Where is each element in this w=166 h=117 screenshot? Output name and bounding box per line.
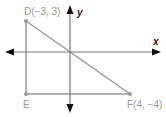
x-axis-right-arrow-icon bbox=[152, 49, 161, 56]
point-f bbox=[128, 92, 132, 96]
point-d bbox=[24, 19, 28, 23]
y-axis-up-arrow-icon bbox=[67, 5, 74, 14]
point-e bbox=[24, 92, 28, 96]
point-e-label: E bbox=[23, 100, 30, 110]
y-axis-down-arrow-icon bbox=[67, 104, 74, 113]
x-axis-left-arrow-icon bbox=[5, 49, 14, 56]
point-d-label: D(−3, 3) bbox=[24, 7, 60, 17]
y-axis-label: y bbox=[77, 8, 83, 18]
point-f-label: F(4, −4) bbox=[127, 100, 162, 110]
segment-df bbox=[26, 21, 130, 94]
x-axis-label: x bbox=[153, 37, 159, 47]
